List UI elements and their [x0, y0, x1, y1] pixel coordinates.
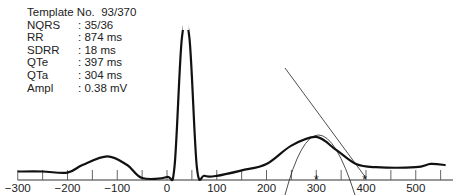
- tick-label: −100: [104, 182, 130, 194]
- ecg-trace: [18, 21, 446, 180]
- tick-label: −200: [55, 182, 81, 194]
- tangent-line: [285, 68, 366, 178]
- star-marker-end: *: [362, 173, 367, 187]
- tick-label: 100: [207, 182, 226, 194]
- tick-label: 200: [257, 182, 276, 194]
- tick-label: 0: [164, 182, 170, 194]
- ecg-template-chart: −300−200−1000100200300400500 **: [0, 0, 453, 195]
- qrs-clip: [182, 0, 188, 30]
- tick-label: 500: [406, 182, 425, 194]
- star-marker-peak: *: [314, 173, 319, 187]
- tick-label: −300: [5, 182, 31, 194]
- annotation-overlays: [285, 68, 366, 195]
